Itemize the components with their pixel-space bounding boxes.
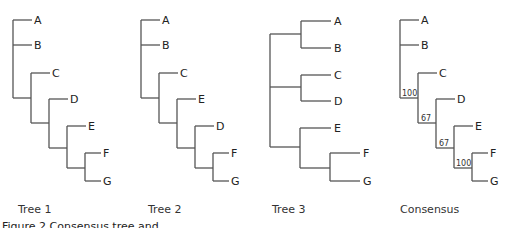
leaf-label: D [457, 93, 465, 106]
support-value: 100 [456, 159, 471, 168]
phylogenetic-trees-figure: ABCDEFGABCEDFGABCDEFGABCDEFG1006767100 [0, 0, 509, 228]
leaf-label: G [231, 175, 240, 188]
leaf-label: E [334, 122, 341, 135]
leaf-label: G [490, 175, 499, 188]
leaf-label: A [334, 15, 342, 28]
leaf-label: D [334, 95, 342, 108]
leaf-label: F [490, 147, 496, 160]
support-value: 100 [402, 89, 417, 98]
tree-caption-3: Tree 3 [264, 203, 372, 216]
leaf-label: D [70, 93, 78, 106]
leaf-label: D [216, 120, 224, 133]
leaf-label: F [363, 147, 369, 160]
leaf-label: C [439, 67, 447, 80]
leaf-label: F [103, 147, 109, 160]
leaf-label: C [52, 67, 60, 80]
leaf-label: G [103, 175, 112, 188]
leaf-label: F [231, 147, 237, 160]
tree-caption-1: Tree 1 [10, 203, 118, 216]
leaf-label: B [162, 39, 170, 52]
leaf-label: C [334, 69, 342, 82]
tree-caption-consensus: Consensus [392, 203, 500, 216]
leaf-label: C [180, 67, 188, 80]
tree-caption-2: Tree 2 [140, 203, 248, 216]
leaf-label: A [421, 14, 429, 27]
leaf-label: E [475, 120, 482, 133]
leaf-label: G [363, 175, 372, 188]
tree-2: ABCEDFG [141, 14, 240, 188]
leaf-label: A [34, 14, 42, 27]
leaf-label: A [162, 14, 170, 27]
tree-4: ABCDEFG1006767100 [400, 14, 499, 188]
support-value: 67 [439, 139, 449, 148]
leaf-label: B [334, 42, 342, 55]
leaf-label: E [88, 120, 95, 133]
support-value: 67 [421, 114, 431, 123]
figure-caption: Figure 2 Consensus tree and [2, 220, 159, 228]
leaf-label: E [198, 93, 205, 106]
leaf-label: B [421, 39, 429, 52]
tree-3: ABCDEFG [270, 15, 372, 188]
tree-1: ABCDEFG [13, 14, 112, 188]
leaf-label: B [34, 39, 42, 52]
